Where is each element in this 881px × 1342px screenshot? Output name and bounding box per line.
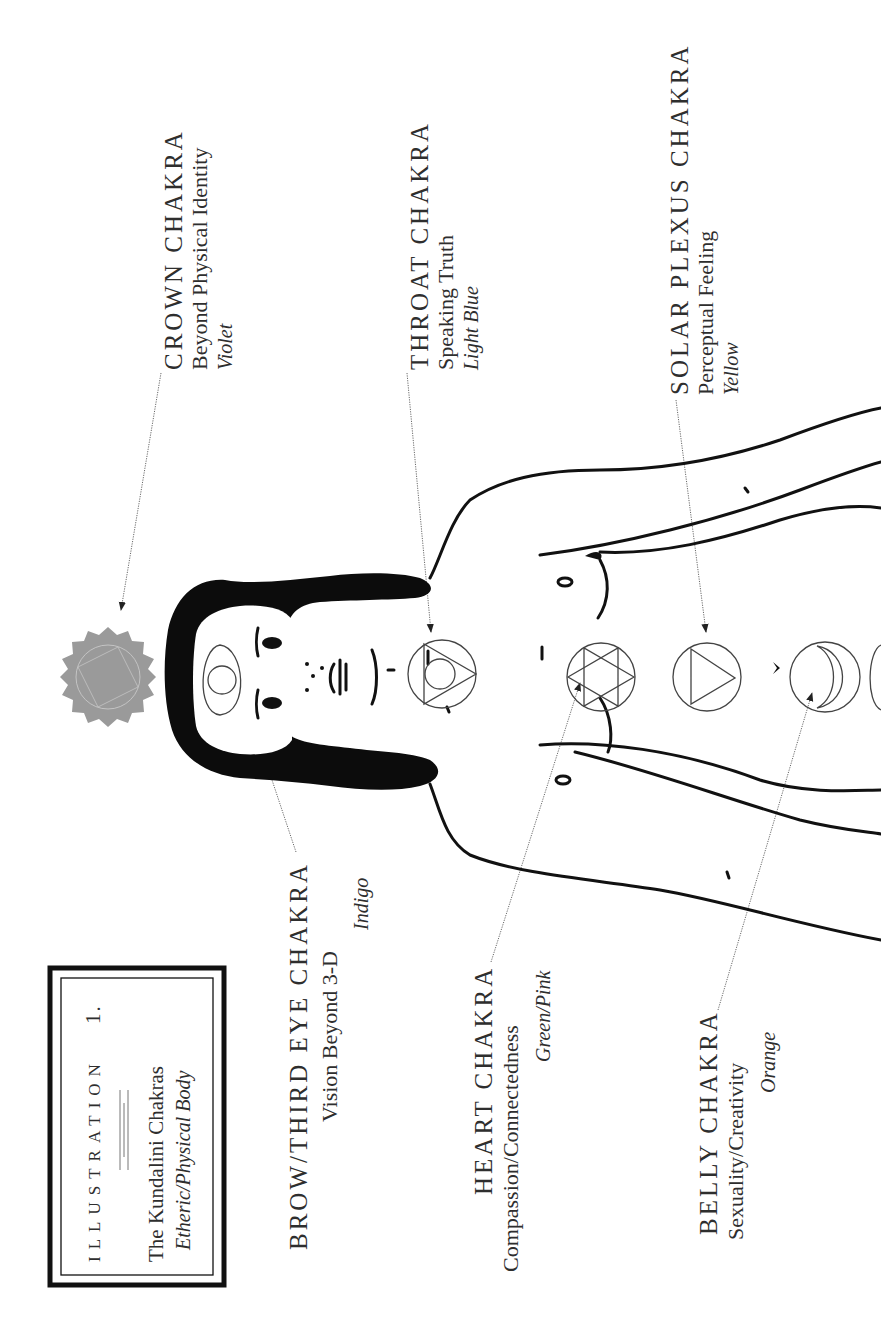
label-crown-chakra: CROWN CHAKRA Beyond Physical Identity Vi… — [160, 129, 236, 370]
chakra-name: HEART CHAKRA — [470, 966, 497, 1195]
chakra-meaning: Perceptual Feeling — [693, 231, 718, 395]
chakra-meaning: Beyond Physical Identity — [187, 148, 212, 370]
label-belly-chakra: BELLY CHAKRA Sexuality/Creativity Orange — [695, 1010, 780, 1240]
chakra-name: BROW/THIRD EYE CHAKRA — [285, 862, 312, 1250]
arm-top-inner — [600, 506, 881, 552]
chakra-meaning: Sexuality/Creativity — [723, 1063, 748, 1240]
chakra-name: THROAT CHAKRA — [406, 121, 433, 370]
triangle-icon — [673, 643, 741, 711]
lotus-icon — [60, 627, 156, 727]
nipple-bottom — [556, 776, 570, 784]
arm-bottom-inner — [575, 752, 881, 834]
chakra-name: CROWN CHAKRA — [160, 129, 187, 370]
chakra-meaning: Compassion/Connectedness — [498, 1025, 523, 1272]
face-features — [305, 650, 394, 704]
crescent-icon — [790, 642, 860, 712]
leader-solar-plexus — [676, 400, 706, 632]
label-solar-plexus-chakra: SOLAR PLEXUS CHAKRA Perceptual Feeling Y… — [666, 44, 742, 395]
chakra-color: Light Blue — [460, 286, 483, 371]
illustration-subtitle: Etheric/Physical Body — [172, 1070, 195, 1251]
human-figure — [165, 408, 881, 940]
triangle-circle-icon — [408, 640, 476, 708]
leader-belly — [718, 693, 812, 1010]
label-brow-chakra: BROW/THIRD EYE CHAKRA Vision Beyond 3-D … — [285, 862, 373, 1250]
label-throat-chakra: THROAT CHAKRA Speaking Truth Light Blue — [406, 121, 483, 371]
nipple-top — [558, 578, 572, 586]
arm-bottom-outer — [540, 744, 881, 791]
chakra-color: Violet — [214, 323, 236, 370]
root-chakra-partial-icon — [870, 645, 881, 710]
chakra-illustration: ILLUSTRATION 1. The Kundalini Chakras Et… — [0, 0, 881, 1342]
illustration-caption-box: ILLUSTRATION 1. The Kundalini Chakras Et… — [50, 968, 224, 1285]
decorative-rule — [120, 1090, 128, 1170]
illustration-number: 1. — [81, 1004, 105, 1024]
chakra-name: SOLAR PLEXUS CHAKRA — [666, 44, 693, 395]
chakra-name: BELLY CHAKRA — [695, 1010, 722, 1235]
navel-mark — [773, 662, 780, 674]
chakra-meaning: Vision Beyond 3-D — [317, 951, 342, 1122]
leader-crown — [121, 373, 161, 610]
chakra-color: Orange — [757, 1032, 780, 1093]
body-outline-top — [430, 408, 881, 578]
body-outline-bottom — [430, 784, 881, 940]
label-heart-chakra: HEART CHAKRA Compassion/Connectedness Gr… — [470, 966, 554, 1272]
illustration-title: The Kundalini Chakras — [144, 1066, 168, 1262]
leader-heart — [491, 683, 580, 962]
chakra-color: Yellow — [720, 342, 742, 395]
chest-line-top — [598, 560, 607, 618]
chakra-color: Green/Pink — [532, 969, 554, 1062]
illustration-heading: ILLUSTRATION — [85, 1057, 104, 1262]
chakra-meaning: Speaking Truth — [433, 235, 458, 370]
chakra-color: Indigo — [350, 878, 373, 931]
